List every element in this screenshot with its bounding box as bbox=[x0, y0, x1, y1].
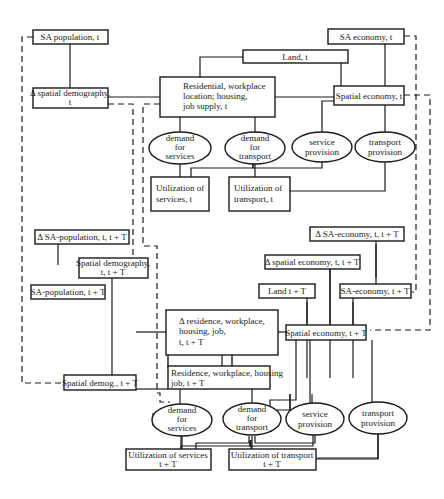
svg-text:Residence, workplace, housing: Residence, workplace, housing bbox=[171, 368, 283, 378]
svg-text:transport: transport bbox=[362, 408, 394, 418]
demand-for-services-tT-ellipse: demand for services bbox=[152, 404, 212, 436]
svg-text:Δ spatial economy, t, t + T: Δ spatial economy, t, t + T bbox=[265, 257, 360, 267]
flow-diagram-bottom: Δ residence, workplace, housing, job, t,… bbox=[0, 0, 444, 499]
residence-workplace-tT-node: Residence, workplace, housing job, t + T bbox=[168, 366, 283, 389]
demand-for-transport-tT-ellipse: demand for transport bbox=[223, 403, 281, 435]
svg-text:services: services bbox=[168, 423, 197, 433]
land-tT-node: Land t + T bbox=[259, 284, 315, 298]
delta-sa-economy-tT-node: Δ SA-economy, t, t + T bbox=[310, 227, 404, 241]
utilization-of-services-tT-node: Utilization of services t + T bbox=[126, 449, 211, 470]
svg-text:provision: provision bbox=[298, 419, 333, 429]
spatial-economy-tT-node: Spatial economy, t + T bbox=[285, 325, 367, 340]
svg-text:Δ residence, workplace,: Δ residence, workplace, bbox=[179, 316, 265, 326]
utilization-of-transport-tT-node: Utilization of transport t + T bbox=[229, 449, 316, 470]
svg-text:Spatial economy, t + T: Spatial economy, t + T bbox=[285, 328, 367, 338]
svg-text:t + T: t + T bbox=[263, 459, 281, 469]
transport-provision-tT-ellipse: transport provision bbox=[349, 402, 407, 434]
svg-text:transport: transport bbox=[236, 422, 268, 432]
sa-economy-tT-node: SA-economy, t + T bbox=[340, 284, 411, 298]
svg-text:SA-economy, t + T: SA-economy, t + T bbox=[341, 286, 410, 296]
svg-text:Land t + T: Land t + T bbox=[268, 286, 307, 296]
svg-text:housing, job,: housing, job, bbox=[179, 326, 226, 336]
svg-text:t + T: t + T bbox=[159, 459, 177, 469]
svg-text:Δ SA-economy, t, t + T: Δ SA-economy, t, t + T bbox=[315, 229, 399, 239]
service-provision-tT-ellipse: service provision bbox=[286, 403, 344, 435]
svg-text:job, t + T: job, t + T bbox=[170, 378, 205, 388]
svg-text:service: service bbox=[302, 409, 327, 419]
delta-residence-workplace-t-tT-node: Δ residence, workplace, housing, job, t,… bbox=[166, 310, 278, 355]
delta-spatial-economy-tT-node: Δ spatial economy, t, t + T bbox=[265, 255, 360, 269]
svg-text:t, t + T: t, t + T bbox=[179, 337, 204, 347]
svg-text:provision: provision bbox=[361, 418, 396, 428]
